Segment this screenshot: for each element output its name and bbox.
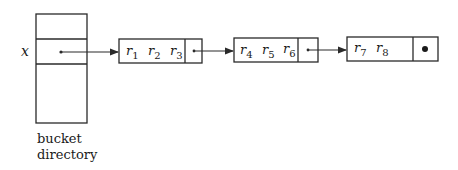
record-r8: r8	[376, 40, 389, 58]
record-r1: r1	[126, 43, 139, 61]
record-r4: r4	[240, 42, 253, 60]
bucket-1: r1 r2 r3	[119, 39, 202, 63]
caption-line-1: bucket	[37, 131, 97, 147]
bucket-directory	[36, 14, 87, 123]
pointer-label-x: x	[21, 43, 29, 59]
directory-caption: bucket directory	[37, 131, 97, 163]
null-pointer-icon	[422, 46, 428, 52]
record-r3: r3	[170, 43, 183, 61]
caption-line-2: directory	[37, 147, 97, 163]
bucket-2: r4 r5 r6	[234, 38, 318, 62]
record-r5: r5	[262, 42, 275, 60]
record-r6: r6	[283, 41, 296, 59]
record-r2: r2	[148, 43, 161, 61]
record-r7: r7	[354, 40, 367, 58]
